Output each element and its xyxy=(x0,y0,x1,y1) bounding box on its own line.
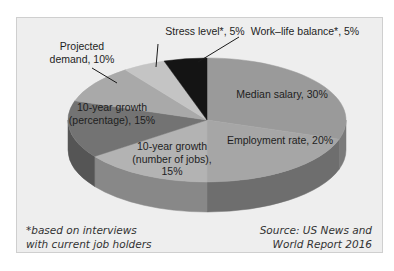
source-note: Source: US News and World Report 2016 xyxy=(260,223,372,251)
source-line-1: Source: US News and xyxy=(260,223,372,237)
footnote: *based on interviews with current job ho… xyxy=(26,223,152,251)
slice-label-5: Stress level*, 5% xyxy=(165,25,244,37)
footnote-line-1: *based on interviews xyxy=(26,223,152,237)
source-line-2: World Report 2016 xyxy=(260,237,372,251)
slice-label-1: Employment rate, 20% xyxy=(227,134,333,146)
slice-label-4: Projecteddemand, 10% xyxy=(50,40,115,65)
footnote-line-2: with current job holders xyxy=(26,237,152,251)
slice-label-0: Median salary, 30% xyxy=(236,88,327,100)
slice-label-6: Work–life balance*, 5% xyxy=(251,25,359,37)
slice-label-3: 10-year growth(percentage), 15% xyxy=(69,101,155,126)
